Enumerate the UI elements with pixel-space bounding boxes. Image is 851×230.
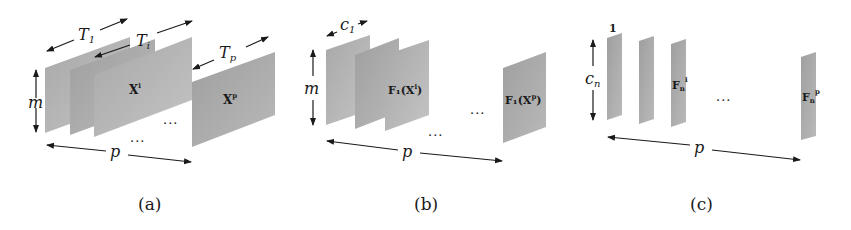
panel-b: F₁(Xi) F₁(Xp) ... ... m c1 p (b) <box>304 15 546 214</box>
ellipsis-a-2: ... <box>130 130 145 145</box>
panel-a: Xi Xp ... ... m T1 Ti Tp p <box>28 19 275 214</box>
tp-arrow-left <box>193 60 214 69</box>
width-label-b: p <box>402 142 412 161</box>
caption-a: (a) <box>138 194 161 214</box>
width-label-a: p <box>110 142 120 161</box>
height-label-c: cn <box>585 69 600 89</box>
figure: Xi Xp ... ... m T1 Ti Tp p <box>0 0 851 230</box>
c1-label: c1 <box>340 15 355 35</box>
t1-arrow-left <box>47 40 74 51</box>
caption-b: (b) <box>414 194 438 214</box>
t1-arrow-right <box>100 19 127 30</box>
ti-arrow-right <box>157 21 192 33</box>
plate-c-1-top-label: 1 <box>609 22 617 35</box>
tp-arrow-right <box>246 37 268 47</box>
width-arrow-b-left <box>327 141 398 150</box>
ellipsis-a-1: ... <box>163 112 178 127</box>
width-label-c: p <box>694 138 704 157</box>
width-arrow-c-right <box>712 150 800 160</box>
height-label-a: m <box>28 93 43 112</box>
plate-c-1 <box>607 33 622 120</box>
plate-label-f1xp: F₁(Xp) <box>505 92 542 107</box>
width-arrow-a-right <box>128 155 191 162</box>
caption-c: (c) <box>690 194 713 214</box>
ellipsis-b-2: ... <box>428 124 443 139</box>
c1-arrow-left <box>327 32 337 36</box>
ellipsis-b-1: ... <box>470 102 485 117</box>
c1-arrow-right <box>358 21 367 24</box>
ellipsis-c-1: ... <box>716 89 731 104</box>
width-arrow-c-left <box>608 137 690 145</box>
t1-label: T1 <box>78 25 95 45</box>
tp-label: Tp <box>219 43 237 63</box>
plate-label-f1xi: F₁(Xi) <box>388 82 422 97</box>
width-arrow-b-right <box>420 153 502 161</box>
height-label-b: m <box>304 79 319 98</box>
plate-c-2 <box>639 36 654 124</box>
ti-label: Ti <box>136 31 150 51</box>
width-arrow-a-left <box>47 145 106 151</box>
panel-c: 1 Fni Fnp ... cn p (c) <box>585 22 820 214</box>
